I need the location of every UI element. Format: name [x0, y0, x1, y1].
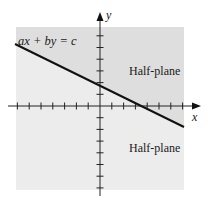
x-axis-label: x	[191, 110, 198, 124]
upper-half-plane-label: Half-plane	[129, 64, 180, 78]
y-axis-arrow-icon	[97, 12, 104, 21]
lower-half-plane-label: Half-plane	[129, 141, 180, 155]
coordinate-plane-diagram: ax + by = c y x Half-plane Half-plane	[0, 0, 210, 204]
y-axis-label: y	[105, 8, 112, 22]
x-axis-arrow-icon	[192, 103, 201, 110]
equation-label: ax + by = c	[18, 34, 77, 48]
